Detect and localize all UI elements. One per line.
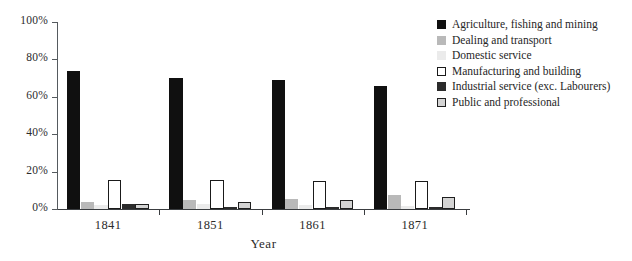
bar	[272, 80, 285, 209]
bar	[374, 86, 387, 209]
bar-chart: 0%20%40%60%80%100% 1841185118611871 Year…	[0, 0, 632, 261]
bar	[299, 205, 312, 209]
bar	[415, 181, 428, 209]
x-axis-tick	[364, 210, 365, 215]
y-axis-tick-label: 0%	[0, 201, 48, 213]
y-axis-tick-label: 80%	[0, 51, 48, 63]
legend-item: Public and professional	[437, 95, 629, 110]
legend-swatch-icon	[437, 67, 446, 76]
legend-item: Domestic service	[437, 48, 629, 63]
legend-label: Dealing and transport	[452, 34, 552, 47]
legend-label: Domestic service	[452, 49, 532, 62]
legend-label: Industrial service (exc. Labourers)	[452, 80, 610, 93]
bar	[326, 207, 339, 209]
x-axis-tick-label: 1841	[68, 218, 148, 233]
bar	[340, 200, 353, 209]
bar	[67, 71, 80, 209]
bar	[108, 180, 121, 209]
bar	[429, 207, 442, 209]
bar	[197, 204, 210, 209]
bar	[94, 205, 107, 209]
legend-label: Manufacturing and building	[452, 65, 581, 78]
bar	[169, 78, 182, 209]
bar	[401, 206, 414, 209]
x-axis-tick-label: 1871	[375, 218, 455, 233]
bar	[224, 207, 237, 209]
bar	[238, 202, 251, 209]
legend-label: Agriculture, fishing and mining	[452, 18, 598, 31]
legend-swatch-icon	[437, 51, 446, 60]
bar	[135, 204, 148, 209]
chart-legend: Agriculture, fishing and miningDealing a…	[437, 17, 629, 110]
x-axis-title: Year	[57, 236, 470, 252]
bar	[442, 197, 455, 209]
bar	[285, 199, 298, 209]
x-axis-tick-label: 1861	[273, 218, 353, 233]
legend-swatch-icon	[437, 20, 446, 29]
legend-swatch-icon	[437, 36, 446, 45]
bar	[313, 181, 326, 209]
bar	[388, 195, 401, 209]
legend-item: Agriculture, fishing and mining	[437, 17, 629, 32]
y-axis-tick-label: 40%	[0, 126, 48, 138]
x-axis-tick	[159, 210, 160, 215]
legend-item: Manufacturing and building	[437, 64, 629, 79]
y-axis-tick-label: 20%	[0, 164, 48, 176]
legend-item: Dealing and transport	[437, 33, 629, 48]
x-axis-tick-label: 1851	[170, 218, 250, 233]
y-axis-tick	[52, 209, 58, 210]
x-axis-line	[57, 209, 470, 210]
legend-item: Industrial service (exc. Labourers)	[437, 79, 629, 94]
y-axis-tick-label: 100%	[0, 14, 48, 26]
bar	[81, 202, 94, 209]
bar	[183, 200, 196, 209]
legend-label: Public and professional	[452, 96, 560, 109]
legend-swatch-icon	[437, 98, 446, 107]
x-axis-tick	[262, 210, 263, 215]
plot-area	[57, 22, 466, 209]
bar	[210, 180, 223, 209]
legend-swatch-icon	[437, 82, 446, 91]
y-axis-tick-label: 60%	[0, 89, 48, 101]
bar	[122, 204, 135, 209]
x-axis-tick	[466, 210, 467, 215]
